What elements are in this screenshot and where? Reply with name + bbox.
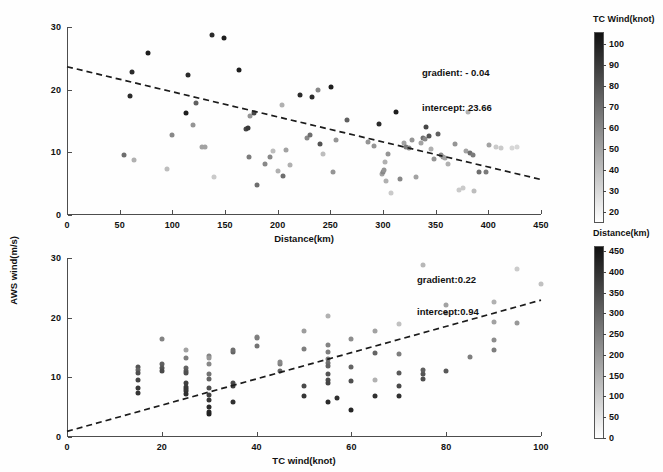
- colorbar-tick: [603, 355, 606, 356]
- x-tick-label: 400: [481, 220, 496, 230]
- scatter-panel-distance: 0102030050100150200250300350400450 Dista…: [67, 27, 541, 215]
- colorbar-tick: [603, 65, 606, 66]
- y-tick-label: 10: [51, 372, 61, 382]
- colorbar-tick: [603, 212, 606, 213]
- colorbar-title-distance: Distance(km): [593, 228, 650, 238]
- colorbar-tick: [603, 438, 606, 439]
- x-tick-label: 0: [64, 220, 69, 230]
- colorbar-tick-label: 80: [609, 81, 619, 91]
- colorbar-tick-label: 300: [609, 308, 624, 318]
- colorbar-tick: [603, 293, 606, 294]
- scatter-panel-tcwind: 0102030020406080100 TC wind(knot) gradie…: [67, 258, 541, 437]
- x-tick-label: 40: [251, 442, 261, 452]
- colorbar-tc-wind: TC Wind(knot) 2030405060708090100: [594, 14, 654, 219]
- colorbar-tick: [603, 107, 606, 108]
- figure-canvas: AWS wind(m/s) 01020300501001502002503003…: [0, 0, 663, 472]
- colorbar-tick-label: 20: [609, 207, 619, 217]
- colorbar-tick: [603, 396, 606, 397]
- y-tick-label: 0: [56, 210, 61, 220]
- colorbar-tick-label: 0: [609, 433, 614, 443]
- colorbar-tick-label: 60: [609, 123, 619, 133]
- colorbar-tick-label: 450: [609, 246, 624, 256]
- y-tick: [68, 437, 72, 438]
- colorbar-tick: [603, 334, 606, 335]
- plot-area-bottom: 0102030020406080100: [67, 258, 541, 437]
- x-tick-label: 60: [346, 442, 356, 452]
- x-tick-label: 350: [428, 220, 443, 230]
- trend-line-top: [67, 27, 541, 215]
- colorbar-tick-label: 150: [609, 371, 624, 381]
- x-tick: [541, 432, 542, 436]
- y-tick-label: 0: [56, 432, 61, 442]
- x-tick-label: 80: [441, 442, 451, 452]
- x-axis-label-top: Distance(km): [274, 233, 334, 244]
- y-tick-label: 20: [51, 313, 61, 323]
- y-axis-label: AWS wind(m/s): [8, 236, 19, 305]
- colorbar-tick-label: 200: [609, 350, 624, 360]
- x-tick-label: 250: [323, 220, 338, 230]
- colorbar-tick-label: 40: [609, 165, 619, 175]
- colorbar-tick: [603, 149, 606, 150]
- colorbar-tick: [603, 376, 606, 377]
- colorbar-title-tc-wind: TC Wind(knot): [593, 14, 654, 24]
- colorbar-distance: Distance(km) 050100150200250300350400450: [594, 228, 654, 448]
- x-tick-label: 100: [165, 220, 180, 230]
- colorbar-tick-label: 30: [609, 186, 619, 196]
- x-axis-label-bottom: TC wind(knot): [272, 455, 335, 466]
- colorbar-tick-label: 350: [609, 288, 624, 298]
- colorbar-tick-label: 100: [609, 39, 624, 49]
- x-tick-label: 200: [270, 220, 285, 230]
- trend-line-bottom: [67, 258, 541, 437]
- x-tick-label: 300: [375, 220, 390, 230]
- colorbar-tick: [603, 44, 606, 45]
- colorbar-tick: [603, 251, 606, 252]
- colorbar-strip-tc-wind: 2030405060708090100: [594, 32, 604, 223]
- colorbar-strip-distance: 050100150200250300350400450: [594, 246, 604, 439]
- x-tick-label: 50: [115, 220, 125, 230]
- colorbar-tick: [603, 86, 606, 87]
- colorbar-tick-label: 250: [609, 329, 624, 339]
- colorbar-tick-label: 50: [609, 144, 619, 154]
- colorbar-tick: [603, 128, 606, 129]
- colorbar-tick-label: 400: [609, 267, 624, 277]
- colorbar-tick: [603, 191, 606, 192]
- y-tick-label: 30: [51, 253, 61, 263]
- colorbar-tick: [603, 417, 606, 418]
- colorbar-tick-label: 50: [609, 412, 619, 422]
- x-tick-label: 150: [217, 220, 232, 230]
- x-tick: [541, 210, 542, 214]
- plot-area-top: 0102030050100150200250300350400450: [67, 27, 541, 215]
- colorbar-tick-label: 100: [609, 391, 624, 401]
- colorbar-tick-label: 90: [609, 60, 619, 70]
- colorbar-tick-label: 70: [609, 102, 619, 112]
- x-tick-label: 100: [533, 442, 548, 452]
- y-tick-label: 10: [51, 147, 61, 157]
- y-tick-label: 20: [51, 85, 61, 95]
- x-tick-label: 450: [533, 220, 548, 230]
- colorbar-tick: [603, 313, 606, 314]
- x-tick-label: 20: [157, 442, 167, 452]
- y-tick: [68, 215, 72, 216]
- y-tick-label: 30: [51, 22, 61, 32]
- x-tick-label: 0: [64, 442, 69, 452]
- colorbar-tick: [603, 272, 606, 273]
- colorbar-tick: [603, 170, 606, 171]
